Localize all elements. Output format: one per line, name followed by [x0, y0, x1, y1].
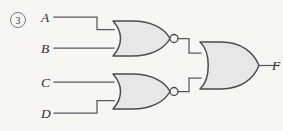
- nor-gate-top-inversion-bubble: [170, 35, 178, 43]
- wire-input-a: [54, 17, 114, 30]
- wire-nor-top-to-or: [178, 39, 201, 54]
- or-gate-output: [200, 42, 259, 89]
- input-d-label: D: [40, 106, 51, 121]
- nor-gate-bottom-body: [113, 74, 170, 109]
- nor-gate-top-body: [113, 21, 170, 56]
- item-number-label: 3: [16, 15, 21, 26]
- wire-nor-bottom-to-or: [178, 78, 201, 92]
- circled-number-icon: 3: [11, 13, 26, 28]
- nor-gate-top: [113, 21, 178, 56]
- output-f-label: F: [271, 58, 281, 73]
- input-c-label: C: [41, 75, 51, 90]
- or-gate-output-body: [200, 42, 259, 89]
- wire-input-d: [54, 101, 114, 114]
- logic-circuit-diagram: 3 A B C D: [0, 0, 283, 131]
- input-b-label: B: [41, 41, 49, 56]
- nor-gate-bottom-inversion-bubble: [170, 88, 178, 96]
- input-a-label: A: [40, 10, 50, 25]
- nor-gate-bottom: [113, 74, 178, 109]
